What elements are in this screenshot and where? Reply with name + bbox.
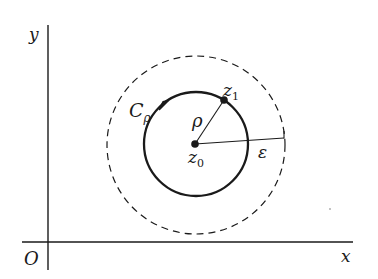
origin-label: O	[24, 248, 39, 269]
z1-label: z1	[222, 80, 239, 103]
z1-label-subscript: 1	[232, 90, 239, 103]
contour-label-subscript: ρ	[143, 111, 151, 125]
radius-epsilon-line	[195, 138, 284, 144]
scan-speck	[329, 208, 331, 210]
contour-diagram: y x O Cρ z1 z0 ρ ε	[0, 0, 378, 279]
orientation-arrow-icon	[160, 101, 169, 110]
contour-label: Cρ	[129, 99, 151, 125]
x-axis-label: x	[341, 246, 351, 266]
rho-label: ρ	[191, 110, 203, 131]
z0-label-subscript: 0	[197, 157, 204, 170]
z0-label: z0	[187, 147, 204, 170]
epsilon-label: ε	[258, 142, 267, 162]
y-axis-label: y	[28, 24, 39, 44]
